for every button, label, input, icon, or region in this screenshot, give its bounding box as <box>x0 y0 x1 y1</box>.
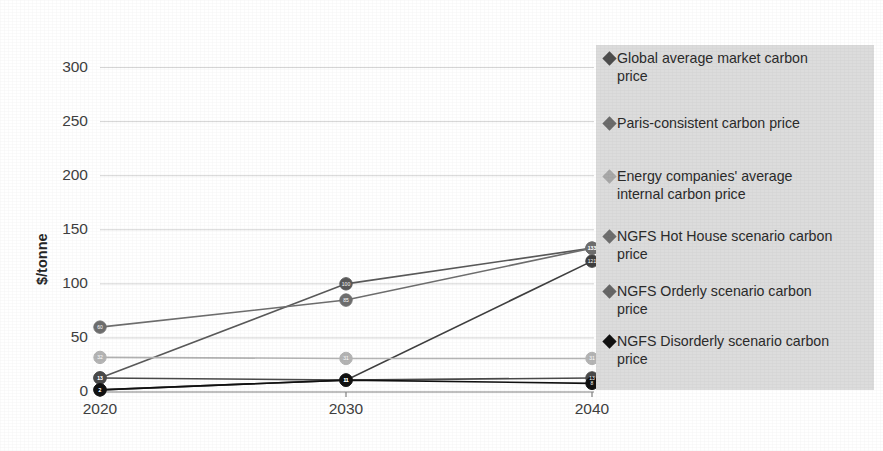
data-point-value-label: 2 <box>99 387 102 393</box>
data-point-value-label: 100 <box>342 281 350 287</box>
legend-item-label: Global average market carbon price <box>617 50 808 85</box>
legend-marker-icon <box>602 169 616 183</box>
legend-item-label: NGFS Hot House scenario carbon price <box>617 228 832 263</box>
data-point-value-label: 8 <box>591 380 594 386</box>
legend-marker-icon <box>602 284 616 298</box>
legend-item-label: NGFS Disorderly scenario carbon price <box>617 333 829 368</box>
legend-marker-icon <box>602 116 616 130</box>
data-point-value-label: 133 <box>588 245 596 251</box>
legend-marker-icon <box>602 229 616 243</box>
data-point-value-label: 32 <box>97 354 103 360</box>
legend-item[interactable]: Paris-consistent carbon price <box>604 115 866 133</box>
legend-item[interactable]: NGFS Orderly scenario carbon price <box>604 283 866 318</box>
data-point-value-label: 85 <box>343 297 349 303</box>
data-point-value-label: 31 <box>343 355 349 361</box>
legend-item-label: Paris-consistent carbon price <box>617 115 800 133</box>
legend-marker-icon <box>602 51 616 65</box>
legend-item[interactable]: NGFS Disorderly scenario carbon price <box>604 333 866 368</box>
data-point-value-label: 60 <box>97 324 103 330</box>
data-point-value-label: 11 <box>343 377 348 383</box>
legend-marker-icon <box>602 334 616 348</box>
legend-item-label: Energy companies' average internal carbo… <box>617 168 792 203</box>
carbon-price-line-chart: $/tonne 050100150200250300 202020302040 … <box>0 0 883 451</box>
legend-item[interactable]: NGFS Hot House scenario carbon price <box>604 228 866 263</box>
data-point-value-label: 121 <box>588 258 596 264</box>
data-point-value-label: 13 <box>97 375 103 381</box>
legend-item[interactable]: Global average market carbon price <box>604 50 866 85</box>
legend-item[interactable]: Energy companies' average internal carbo… <box>604 168 866 203</box>
legend-item-label: NGFS Orderly scenario carbon price <box>617 283 812 318</box>
data-point-value-label: 31 <box>589 355 595 361</box>
chart-legend: Global average market carbon priceParis-… <box>596 45 874 390</box>
